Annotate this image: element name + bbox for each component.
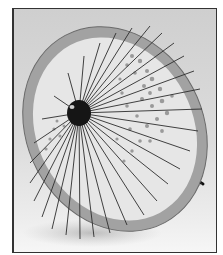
umbrella-hub: [67, 100, 91, 126]
umbrella-photo: [14, 9, 216, 252]
photo-frame: [12, 8, 217, 253]
umbrella-canopy: [14, 9, 216, 252]
